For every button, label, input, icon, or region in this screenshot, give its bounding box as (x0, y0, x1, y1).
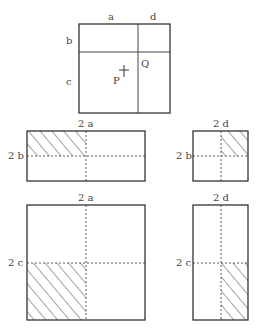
label-2a: 2 a (78, 118, 94, 129)
label-2c: 2 c (176, 257, 192, 268)
top-square-figure: a d b c P Q (66, 11, 170, 113)
bottom-right-rect: 2 d 2 c (176, 192, 248, 320)
label-b: b (66, 35, 72, 46)
label-d: d (150, 11, 157, 22)
label-2c: 2 c (8, 257, 24, 268)
label-p: P (113, 75, 120, 86)
label-a: a (108, 11, 114, 22)
middle-right-rect: 2 d 2 b (176, 118, 248, 181)
middle-left-rect: 2 a 2 b (8, 118, 145, 181)
label-2b: 2 b (176, 150, 192, 161)
label-c: c (66, 76, 72, 87)
label-2d: 2 d (213, 118, 230, 129)
label-q: Q (141, 58, 149, 69)
cross-marker-p (119, 65, 129, 77)
bottom-left-rect: 2 a 2 c (8, 192, 145, 320)
label-2d: 2 d (213, 192, 230, 203)
label-2b: 2 b (8, 150, 24, 161)
label-2a: 2 a (78, 192, 94, 203)
